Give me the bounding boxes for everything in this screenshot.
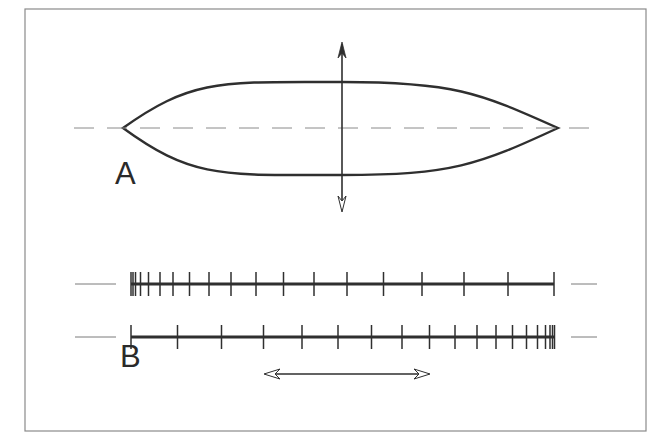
panel-b-label: B bbox=[120, 339, 141, 374]
horizontal-double-arrow-icon bbox=[264, 369, 430, 379]
lens-diagram: A B bbox=[0, 0, 652, 445]
tick-line-top bbox=[75, 272, 597, 296]
panel-b: B bbox=[75, 272, 597, 379]
panel-a: A bbox=[74, 42, 596, 212]
vertical-double-arrow-icon bbox=[338, 42, 346, 212]
figure-frame bbox=[25, 9, 646, 431]
panel-a-label: A bbox=[115, 156, 136, 191]
tick-line-bottom bbox=[75, 325, 597, 349]
